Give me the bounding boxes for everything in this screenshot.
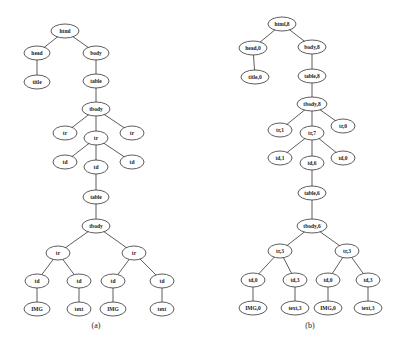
tree-node: table xyxy=(83,190,109,204)
node-label: html xyxy=(60,28,71,34)
node-label: table,8 xyxy=(304,73,320,79)
node-label: td,0 xyxy=(248,277,257,283)
node-label: td,0 xyxy=(323,277,332,283)
tree-b: html,8head,0body,8title,0table,8tbody,8t… xyxy=(239,17,382,330)
tree-node: tbody,8 xyxy=(297,97,327,111)
tree-node: html,8 xyxy=(268,17,296,31)
caption-a: (a) xyxy=(92,321,101,330)
node-label: head xyxy=(31,50,42,56)
node-label: head,0 xyxy=(245,45,261,51)
tree-node: IMG xyxy=(100,302,126,316)
node-label: body xyxy=(90,50,102,56)
tree-node: text xyxy=(150,302,174,316)
node-label: tr,3 xyxy=(276,248,284,254)
node-label: td,3 xyxy=(290,277,299,283)
node-label: tr,0 xyxy=(339,123,347,129)
tree-node: tr xyxy=(84,131,108,145)
tree-node: td xyxy=(67,274,91,288)
node-label: tr xyxy=(132,250,137,256)
node-label: text xyxy=(158,306,167,312)
tree-a: htmlheadbodytitletabletbodytrtrtrtdtdtdt… xyxy=(24,24,174,330)
node-label: tr,7 xyxy=(308,130,316,136)
tree-node: td,0 xyxy=(241,273,265,287)
node-label: text xyxy=(75,306,84,312)
node-label: td,1 xyxy=(275,155,284,161)
node-label: tr xyxy=(94,135,99,141)
node-label: tbody xyxy=(89,106,103,112)
tree-node: td xyxy=(53,155,77,169)
tree-node: td,1 xyxy=(268,151,292,165)
tree-node: tr xyxy=(53,126,77,140)
tree-node: td xyxy=(150,274,174,288)
tree-node: td,3 xyxy=(283,273,307,287)
node-label: td xyxy=(111,278,116,284)
node-label: table,6 xyxy=(304,190,320,196)
tree-node: tr,0 xyxy=(331,119,355,133)
tree-node: table xyxy=(83,74,109,88)
tree-node: head xyxy=(24,46,50,60)
tree-node: tbody xyxy=(82,219,110,233)
node-label: IMG,0 xyxy=(320,305,336,311)
tree-node: table,6 xyxy=(298,186,326,200)
node-label: tr,3 xyxy=(343,248,351,254)
node-label: title xyxy=(32,79,42,85)
tree-node: IMG,0 xyxy=(314,301,342,315)
tree-node: td,3 xyxy=(356,273,380,287)
tree-node: html xyxy=(51,24,79,38)
tree-node: IMG xyxy=(24,302,50,316)
node-label: text,3 xyxy=(362,305,375,311)
node-label: td xyxy=(63,159,68,165)
node-label: td xyxy=(35,278,40,284)
node-label: td xyxy=(130,159,135,165)
node-label: table xyxy=(90,194,102,200)
node-label: IMG xyxy=(31,306,43,312)
node-label: text,3 xyxy=(289,305,302,311)
node-label: IMG,0 xyxy=(245,305,261,311)
tree-node: title xyxy=(24,75,50,89)
tree-node: head,0 xyxy=(239,41,267,55)
tree-node: td xyxy=(25,274,49,288)
node-label: tbody xyxy=(89,223,103,229)
node-label: table xyxy=(90,78,102,84)
node-label: td xyxy=(94,164,99,170)
tree-node: td xyxy=(84,160,108,174)
tree-node: text,3 xyxy=(354,301,382,315)
tree-node: td xyxy=(120,155,144,169)
node-label: td,3 xyxy=(363,277,372,283)
tree-node: td,0 xyxy=(316,273,340,287)
tree-node: tbody,6 xyxy=(297,219,327,233)
node-label: tr,1 xyxy=(276,127,284,133)
node-label: body,8 xyxy=(304,44,320,50)
node-label: tbody,8 xyxy=(303,101,321,107)
tree-node: tr xyxy=(122,246,146,260)
node-label: tr xyxy=(63,130,68,136)
tree-node: title,0 xyxy=(241,70,269,84)
node-label: title,0 xyxy=(248,74,262,80)
node-label: IMG xyxy=(107,306,119,312)
node-label: tr xyxy=(56,250,61,256)
node-label: td xyxy=(77,278,82,284)
node-label: html,8 xyxy=(274,21,289,27)
node-label: td,0 xyxy=(338,155,347,161)
caption-b: (b) xyxy=(305,321,315,330)
dom-tree-figure: htmlheadbodytitletabletbodytrtrtrtdtdtdt… xyxy=(0,0,404,344)
tree-node: tr,3 xyxy=(335,244,359,258)
tree-node: body,8 xyxy=(298,40,326,54)
node-label: tbody,6 xyxy=(303,223,321,229)
tree-node: tr,7 xyxy=(300,126,324,140)
tree-node: body xyxy=(83,46,109,60)
node-label: td xyxy=(160,278,165,284)
tree-node: tr,3 xyxy=(268,244,292,258)
tree-node: IMG,0 xyxy=(239,301,267,315)
tree-node: tr,1 xyxy=(268,123,292,137)
tree-node: td xyxy=(101,274,125,288)
tree-node: tbody xyxy=(82,102,110,116)
tree-node: table,8 xyxy=(298,69,326,83)
tree-node: td,6 xyxy=(300,156,324,170)
tree-node: text xyxy=(67,302,91,316)
tree-a-nodes: htmlheadbodytitletabletbodytrtrtrtdtdtdt… xyxy=(24,24,174,316)
tree-node: tr xyxy=(46,246,70,260)
tree-node: td,0 xyxy=(331,151,355,165)
tree-node: text,3 xyxy=(281,301,309,315)
tree-node: tr xyxy=(120,126,144,140)
